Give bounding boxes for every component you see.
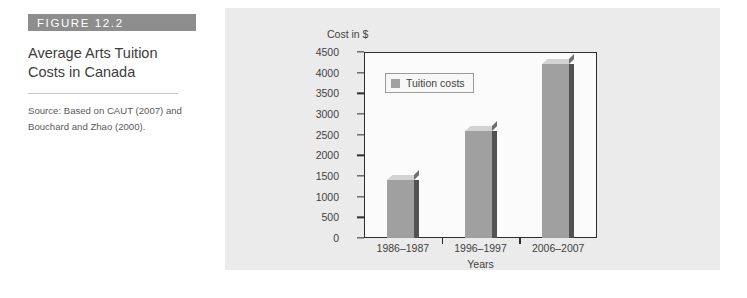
y-tick-label: 500 (305, 211, 339, 223)
y-tick-label: 3500 (305, 87, 339, 99)
y-tick-mark (357, 113, 364, 114)
y-tick-mark (357, 217, 364, 218)
bar-side-face (569, 64, 574, 238)
y-tick-label: 4500 (305, 46, 339, 58)
figure-source-note: Source: Based on CAUT (2007) and Bouchar… (28, 103, 183, 134)
bar-front-face (387, 180, 414, 238)
x-tick-label: 1986–1987 (366, 242, 440, 254)
y-tick-mark (357, 155, 364, 156)
chart-panel: Cost in $ 050010001500200025003000350040… (225, 8, 720, 270)
legend-swatch-icon (391, 79, 400, 88)
y-tick-mark (357, 134, 364, 135)
y-tick-mark (357, 72, 364, 73)
y-tick-label: 2000 (305, 149, 339, 161)
figure-title: Average Arts Tuition Costs in Canada (28, 44, 188, 82)
y-tick-mark (357, 51, 364, 52)
y-tick-mark (357, 175, 364, 176)
y-tick-label: 4000 (305, 67, 339, 79)
y-tick-label: 2500 (305, 129, 339, 141)
x-axis-title: Years (364, 258, 597, 270)
figure-number-label: FIGURE 12.2 (37, 17, 124, 29)
y-tick-label: 1000 (305, 191, 339, 203)
bar-side-face (492, 131, 497, 238)
bar-front-face (542, 64, 569, 238)
bar-front-face (465, 131, 492, 238)
legend-label: Tuition costs (406, 77, 465, 89)
y-tick-label: 3000 (305, 108, 339, 120)
x-tick-label: 1996–1997 (444, 242, 518, 254)
caption-divider (28, 93, 178, 94)
y-tick-label: 1500 (305, 170, 339, 182)
figure-caption-column: FIGURE 12.2 Average Arts Tuition Costs i… (28, 14, 196, 134)
chart-container: Cost in $ 050010001500200025003000350040… (225, 8, 720, 270)
y-tick-mark (357, 93, 364, 94)
y-axis-title: Cost in $ (327, 28, 368, 40)
chart-legend: Tuition costs (385, 73, 474, 93)
figure-number-banner: FIGURE 12.2 (28, 14, 196, 31)
y-tick-mark (357, 237, 364, 238)
y-tick-label: 0 (305, 232, 339, 244)
x-tick-label: 2006–2007 (521, 242, 595, 254)
bar-side-face (414, 180, 419, 238)
y-tick-mark (357, 196, 364, 197)
